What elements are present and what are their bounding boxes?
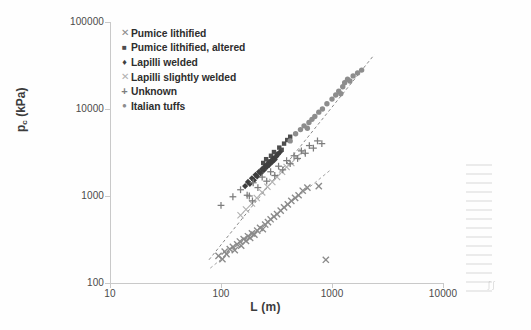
legend-item-label: Lapilli slightly welded bbox=[131, 72, 236, 83]
plus-cross-icon: + bbox=[118, 86, 131, 97]
data-point-filled-circle bbox=[293, 131, 298, 136]
data-point-filled-circle bbox=[306, 120, 311, 125]
data-point-plus-cross bbox=[279, 166, 286, 173]
data-point-x-cross bbox=[234, 241, 240, 247]
data-point-x-cross bbox=[288, 198, 294, 204]
data-point-x-cross bbox=[247, 235, 253, 241]
filled-diamond-icon: ♦ bbox=[118, 58, 131, 67]
legend-item-filled-diamond[interactable]: ♦Lapilli welded bbox=[118, 55, 245, 70]
legend-item-label: Unknown bbox=[131, 86, 177, 97]
data-point-plus-cross bbox=[244, 192, 251, 199]
data-point-x-cross bbox=[243, 238, 249, 244]
data-point-x-cross bbox=[237, 238, 243, 244]
data-point-filled-diamond bbox=[251, 177, 257, 183]
data-point-x-cross-light bbox=[269, 179, 275, 185]
y-tick-label: 100 bbox=[44, 277, 104, 288]
data-point-plus-cross bbox=[287, 160, 294, 167]
data-point-plus-cross bbox=[302, 150, 309, 157]
legend-item-x-cross[interactable]: ✕Pumice lithified bbox=[118, 26, 245, 41]
data-point-filled-diamond bbox=[261, 167, 267, 173]
data-point-x-cross bbox=[265, 219, 271, 225]
data-point-x-cross bbox=[241, 236, 247, 242]
data-point-x-cross-light bbox=[243, 206, 249, 212]
data-point-x-cross-light bbox=[299, 149, 305, 155]
data-point-x-cross bbox=[245, 233, 251, 239]
data-point-filled-circle bbox=[355, 70, 360, 75]
data-point-x-cross bbox=[254, 228, 260, 234]
legend-item-label: Pumice lithified bbox=[131, 28, 206, 39]
x-tick-label: 10000 bbox=[413, 288, 473, 299]
data-point-filled-square bbox=[288, 135, 292, 139]
data-point-x-cross bbox=[295, 192, 301, 198]
data-point-x-cross bbox=[232, 247, 238, 253]
data-point-x-cross-light bbox=[259, 189, 265, 195]
data-point-filled-diamond bbox=[268, 158, 274, 164]
data-point-plus-cross bbox=[314, 137, 321, 144]
data-point-filled-square bbox=[261, 161, 265, 165]
y-axis-line bbox=[110, 22, 111, 283]
data-point-filled-circle bbox=[345, 77, 350, 82]
legend-item-filled-square[interactable]: ■Pumice lithified, altered bbox=[118, 41, 245, 56]
data-point-filled-diamond bbox=[273, 153, 279, 159]
data-point-filled-circle bbox=[298, 127, 303, 132]
data-point-filled-diamond bbox=[253, 172, 259, 178]
data-point-plus-cross bbox=[237, 186, 244, 193]
data-point-x-cross bbox=[222, 248, 228, 254]
data-point-filled-square bbox=[272, 150, 276, 154]
data-point-x-cross-light bbox=[264, 184, 270, 190]
data-point-plus-cross bbox=[246, 193, 253, 200]
x-tick-label: 100 bbox=[191, 288, 251, 299]
data-point-filled-circle bbox=[333, 92, 338, 97]
x-axis-line bbox=[110, 283, 443, 284]
data-point-filled-diamond bbox=[264, 164, 270, 170]
data-point-x-cross bbox=[249, 230, 255, 236]
data-point-x-cross bbox=[281, 204, 287, 210]
data-point-filled-circle bbox=[324, 101, 329, 106]
data-point-x-cross-light bbox=[284, 164, 290, 170]
data-point-filled-diamond bbox=[242, 183, 248, 189]
data-point-x-cross bbox=[278, 207, 284, 213]
data-point-x-cross bbox=[223, 251, 229, 257]
data-point-plus-cross bbox=[218, 202, 225, 209]
data-point-plus-cross bbox=[283, 157, 290, 164]
y-tick-label: 100000 bbox=[44, 16, 104, 27]
data-point-filled-circle bbox=[340, 84, 345, 89]
figure-root: 100100010000100000 10100100010000 pc (kP… bbox=[0, 0, 531, 330]
data-point-x-cross bbox=[260, 226, 266, 232]
legend-item-x-cross-light[interactable]: ✕Lapilli slightly welded bbox=[118, 70, 245, 85]
data-point-plus-cross bbox=[310, 145, 317, 152]
y-tick-mark bbox=[105, 22, 110, 23]
data-point-x-cross bbox=[257, 225, 263, 231]
x-axis-title: L (m) bbox=[0, 300, 531, 314]
data-point-plus-cross bbox=[271, 172, 278, 179]
legend-item-plus-cross[interactable]: +Unknown bbox=[118, 84, 245, 99]
data-point-x-cross bbox=[238, 243, 244, 249]
data-point-x-cross-light bbox=[249, 200, 255, 206]
y-axis-title-sub: c bbox=[20, 120, 29, 124]
data-point-filled-diamond bbox=[254, 173, 260, 179]
data-point-filled-square bbox=[275, 152, 279, 156]
y-tick-mark bbox=[105, 109, 110, 110]
data-point-filled-diamond bbox=[272, 157, 278, 163]
data-point-filled-circle bbox=[312, 114, 317, 119]
data-point-filled-circle bbox=[316, 109, 321, 114]
data-point-x-cross bbox=[292, 195, 298, 201]
data-point-x-cross bbox=[230, 244, 236, 250]
legend-item-filled-circle[interactable]: ●Italian tuffs bbox=[118, 99, 245, 114]
data-point-plus-cross bbox=[259, 174, 266, 181]
data-point-filled-circle bbox=[336, 89, 341, 94]
data-point-filled-square bbox=[266, 159, 270, 163]
data-point-filled-diamond bbox=[266, 162, 272, 168]
x-tick-label: 10 bbox=[80, 288, 140, 299]
data-point-x-cross-light bbox=[274, 174, 280, 180]
data-point-plus-cross bbox=[318, 140, 325, 147]
data-point-filled-diamond bbox=[265, 161, 271, 167]
data-point-filled-circle bbox=[320, 106, 325, 111]
data-point-x-cross-light bbox=[294, 154, 300, 160]
data-point-filled-diamond bbox=[245, 179, 251, 185]
x-cross-light-icon: ✕ bbox=[118, 72, 131, 82]
filled-circle-icon: ● bbox=[118, 102, 131, 110]
y-tick-label: 1000 bbox=[44, 190, 104, 201]
data-point-plus-cross bbox=[249, 197, 256, 204]
legend-item-label: Pumice lithified, altered bbox=[131, 42, 245, 53]
